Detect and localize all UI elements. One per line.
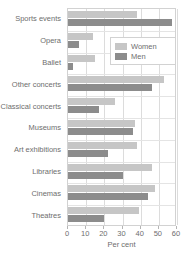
bar-men[interactable] — [68, 128, 133, 135]
bar-group — [68, 205, 175, 227]
bar-group — [68, 162, 175, 184]
bar-men[interactable] — [68, 215, 104, 222]
bar-men[interactable] — [68, 84, 152, 91]
bar-women[interactable] — [68, 33, 93, 40]
category-label: Art exhibitions — [14, 145, 61, 154]
tick-label: 30 — [117, 229, 125, 238]
bar-women[interactable] — [68, 11, 137, 18]
bar-men[interactable] — [68, 63, 73, 70]
bar-group — [68, 74, 175, 96]
bar-men[interactable] — [68, 19, 172, 26]
chart-title — [0, 0, 183, 2]
women-swatch-icon — [115, 43, 127, 50]
bar-men[interactable] — [68, 41, 79, 48]
bar-men[interactable] — [68, 172, 123, 179]
y-axis-category-labels: Sports eventsOperaBalletOther concertsCl… — [0, 8, 64, 226]
x-axis-ticks: 0102030405060 — [67, 226, 176, 238]
bar-group — [68, 183, 175, 205]
bar-women[interactable] — [68, 142, 137, 149]
bar-women[interactable] — [68, 76, 164, 83]
bar-group — [68, 96, 175, 118]
tick-label: 0 — [65, 229, 69, 238]
category-label: Museums — [28, 123, 61, 132]
category-label: Ballet — [42, 58, 61, 67]
legend-label-men: Men — [131, 52, 146, 61]
x-axis-title: Per cent — [67, 240, 176, 249]
bar-chart: Sports eventsOperaBalletOther concertsCl… — [0, 0, 183, 258]
bar-group — [68, 140, 175, 162]
legend-item-women[interactable]: Women — [115, 41, 172, 51]
bar-women[interactable] — [68, 164, 152, 171]
bar-men[interactable] — [68, 150, 108, 157]
bar-women[interactable] — [68, 55, 95, 62]
bar-women[interactable] — [68, 207, 139, 214]
bar-women[interactable] — [68, 120, 135, 127]
bar-men[interactable] — [68, 193, 148, 200]
category-label: Classical concerts — [1, 102, 61, 111]
bar-women[interactable] — [68, 185, 155, 192]
tick-label: 20 — [99, 229, 107, 238]
category-label: Sports events — [15, 14, 61, 23]
legend-label-women: Women — [131, 42, 157, 51]
bar-group — [68, 9, 175, 31]
men-swatch-icon — [115, 53, 127, 60]
legend-item-men[interactable]: Men — [115, 51, 172, 61]
category-label: Opera — [40, 36, 61, 45]
tick-label: 50 — [154, 229, 162, 238]
legend: Women Men — [110, 37, 176, 65]
bar-men[interactable] — [68, 106, 99, 113]
tick-label: 40 — [135, 229, 143, 238]
category-label: Theatres — [31, 211, 61, 220]
gridline — [177, 9, 178, 225]
tick-label: 60 — [172, 229, 180, 238]
bar-women[interactable] — [68, 98, 115, 105]
category-label: Libraries — [32, 167, 61, 176]
category-label: Other concerts — [12, 80, 61, 89]
category-label: Cinemas — [31, 189, 61, 198]
tick-label: 10 — [81, 229, 89, 238]
bar-group — [68, 118, 175, 140]
